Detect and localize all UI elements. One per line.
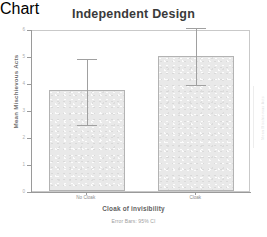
y-axis-tick: [27, 192, 32, 193]
y-axis-title: Mean Mischievous Acts: [12, 32, 19, 152]
x-axis-title: Cloak of invisibility: [0, 205, 267, 212]
y-axis-tick-label: 2: [13, 136, 25, 141]
error-bar-cap-upper: [77, 59, 97, 60]
y-axis-tick-label: 1: [13, 163, 25, 168]
chart-container: Independent Design Mean Mischievous Acts…: [0, 0, 267, 237]
y-axis-tick: [27, 57, 32, 58]
x-axis-line: [31, 192, 251, 193]
error-bar-stem: [87, 59, 88, 125]
y-axis-tick: [27, 138, 32, 139]
y-axis-tick-label: 5: [13, 55, 25, 60]
error-bar-stem: [196, 28, 197, 85]
edge-artifact-text: Mean Mischievous Acts: [261, 96, 265, 140]
y-axis-tick: [27, 84, 32, 85]
y-axis-tick-label: 0: [13, 190, 25, 195]
error-bar-cap-lower: [77, 125, 97, 126]
chart-title: Independent Design: [0, 7, 267, 21]
x-axis-category-label: Cloak: [160, 196, 230, 201]
y-axis-tick: [27, 111, 32, 112]
y-axis-tick-label: 4: [13, 82, 25, 87]
edge-rule-decoration: [253, 86, 254, 148]
chart-footnote: Error Bars: 95% CI: [0, 218, 267, 224]
plot-area: [31, 30, 250, 192]
error-bar-cap-upper: [186, 28, 206, 29]
plot-inner: [32, 31, 249, 191]
y-axis-tick: [27, 165, 32, 166]
y-axis-tick-label: 3: [13, 109, 25, 114]
error-bar-cap-lower: [186, 85, 206, 86]
x-axis-category-label: No Cloak: [51, 196, 121, 201]
y-axis-tick: [27, 30, 32, 31]
y-axis-tick-label: 6: [13, 28, 25, 33]
